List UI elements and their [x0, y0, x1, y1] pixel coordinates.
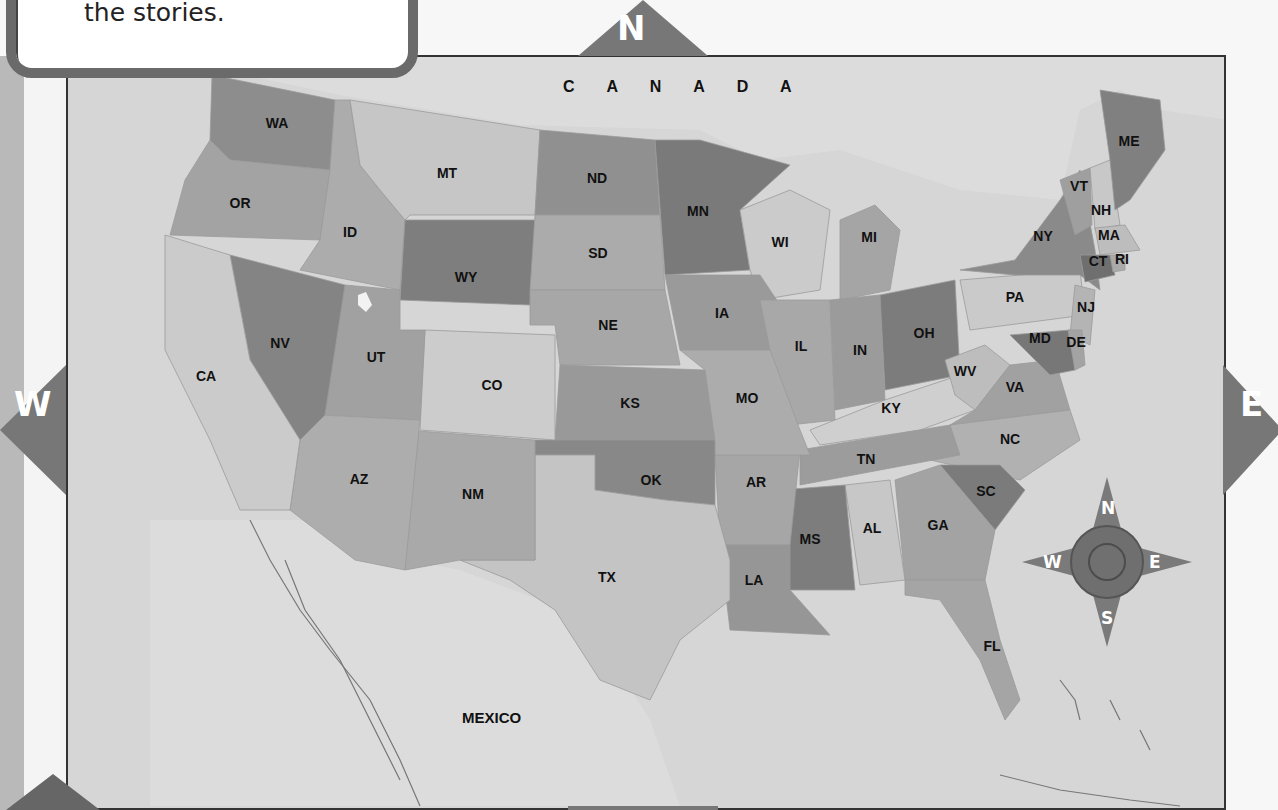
state-label-wi: WI [771, 234, 788, 250]
state-label-tn: TN [857, 451, 876, 467]
west-label: W [14, 384, 52, 424]
state-label-ga: GA [928, 517, 949, 533]
state-label-nh: NH [1091, 202, 1111, 218]
compass-n: N [1101, 498, 1115, 518]
state-label-mt: MT [437, 165, 458, 181]
state-label-nj: NJ [1077, 299, 1095, 315]
state-label-ct: CT [1089, 253, 1108, 269]
state-label-ri: RI [1115, 251, 1129, 267]
canada-label: C A N A D A [563, 78, 806, 95]
state-label-wv: WV [954, 363, 977, 379]
state-label-mo: MO [736, 390, 759, 406]
state-label-ar: AR [746, 474, 766, 490]
state-label-co: CO [482, 377, 503, 393]
state-label-mi: MI [861, 229, 877, 245]
state-label-ks: KS [620, 395, 639, 411]
compass-w: W [1043, 552, 1062, 572]
state-label-or: OR [230, 195, 251, 211]
state-label-la: LA [745, 572, 764, 588]
us-map: C A N A D A MEXICO WAORIDMTWYNDSDNEMNIAW… [66, 55, 1226, 810]
state-label-nc: NC [1000, 431, 1020, 447]
state-label-nm: NM [462, 486, 484, 502]
state-label-az: AZ [350, 471, 369, 487]
south-arrow-icon [568, 806, 718, 810]
state-label-nv: NV [270, 335, 290, 351]
map-canvas: C A N A D A MEXICO WAORIDMTWYNDSDNEMNIAW… [66, 55, 1226, 810]
state-label-ma: MA [1098, 227, 1120, 243]
state-label-va: VA [1006, 379, 1024, 395]
instruction-text: the stories. [84, 0, 225, 27]
east-arrow-icon [1223, 355, 1278, 505]
state-label-al: AL [863, 520, 882, 536]
state-label-id: ID [343, 224, 357, 240]
state-label-in: IN [853, 342, 867, 358]
compass-e: E [1149, 552, 1161, 572]
compass-s: S [1101, 608, 1113, 628]
state-label-mn: MN [687, 203, 709, 219]
state-label-wy: WY [455, 269, 478, 285]
state-label-sd: SD [588, 245, 607, 261]
instruction-box: the stories. [6, 0, 418, 78]
state-label-ne: NE [598, 317, 617, 333]
state-label-me: ME [1119, 133, 1140, 149]
state-label-md: MD [1029, 330, 1051, 346]
state-label-ky: KY [881, 400, 901, 416]
corner-arrow-icon [0, 774, 110, 810]
state-label-vt: VT [1070, 178, 1088, 194]
state-label-ia: IA [715, 305, 729, 321]
mexico-label: MEXICO [462, 709, 522, 726]
state-label-fl: FL [983, 638, 1001, 654]
state-label-nd: ND [587, 170, 607, 186]
state-label-tx: TX [598, 569, 617, 585]
state-label-pa: PA [1006, 289, 1024, 305]
north-label: N [617, 8, 645, 48]
east-label: E [1240, 384, 1263, 424]
state-label-de: DE [1066, 334, 1085, 350]
state-label-oh: OH [914, 325, 935, 341]
state-label-ok: OK [641, 472, 662, 488]
state-label-ca: CA [196, 368, 216, 384]
state-label-wa: WA [266, 115, 289, 131]
state-label-ms: MS [800, 531, 821, 547]
state-label-ut: UT [367, 349, 386, 365]
state-label-sc: SC [976, 483, 995, 499]
west-arrow-icon [0, 355, 66, 505]
state-label-ny: NY [1033, 228, 1053, 244]
state-label-il: IL [795, 338, 808, 354]
